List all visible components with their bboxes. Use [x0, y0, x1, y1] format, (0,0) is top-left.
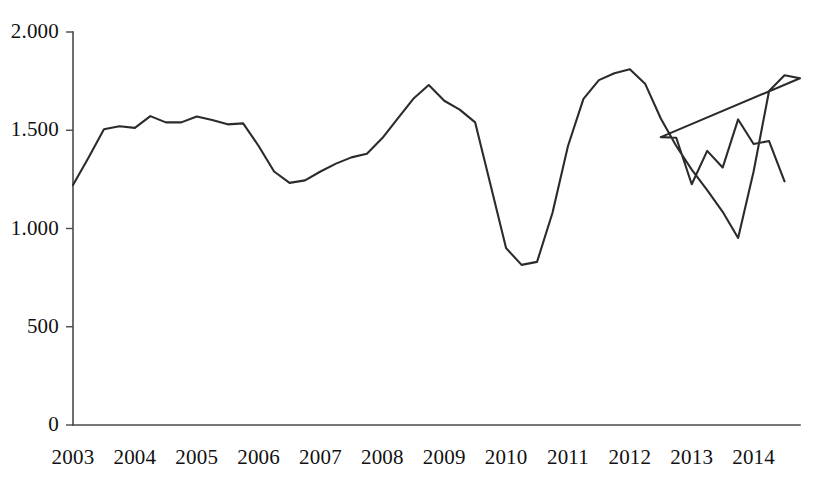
y-axis-tick-label: 1.000 — [0, 218, 59, 239]
y-axis-tick-label: 2.000 — [0, 21, 59, 42]
x-axis-tick-label: 2003 — [43, 447, 103, 468]
x-axis-tick-label: 2008 — [352, 447, 412, 468]
y-axis-tick-label: 1.500 — [0, 119, 59, 140]
line-chart-plot — [0, 0, 821, 492]
x-axis-tick-label: 2014 — [724, 447, 784, 468]
axes-group — [66, 32, 800, 425]
x-axis-tick-label: 2012 — [600, 447, 660, 468]
y-axis-tick-label: 0 — [0, 414, 59, 435]
x-axis-tick-label: 2011 — [538, 447, 598, 468]
x-axis-tick-label: 2013 — [662, 447, 722, 468]
y-axis-tick-marks — [66, 32, 73, 425]
chart-container: 2.0001.5001.0005000 20032004200520062007… — [0, 0, 821, 492]
series-group — [73, 69, 800, 265]
data-series-line — [73, 69, 800, 265]
x-axis-tick-label: 2010 — [476, 447, 536, 468]
x-axis-tick-label: 2004 — [105, 447, 165, 468]
x-axis-tick-label: 2007 — [290, 447, 350, 468]
y-axis-tick-label: 500 — [0, 316, 59, 337]
x-axis-tick-label: 2005 — [167, 447, 227, 468]
x-axis-tick-label: 2006 — [229, 447, 289, 468]
x-axis-tick-label: 2009 — [414, 447, 474, 468]
